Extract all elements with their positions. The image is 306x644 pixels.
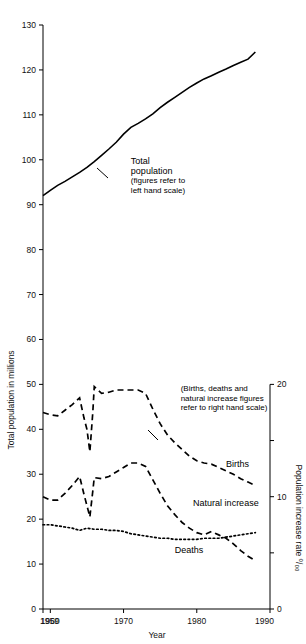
x-axis-title: Year <box>148 630 165 640</box>
x-tick-label: 1960 <box>41 616 60 626</box>
total-population-note-line: population <box>131 166 173 176</box>
y-tick-label-left: 90 <box>27 200 37 210</box>
axes-group: 0102030405060708090100110120130010201959… <box>22 20 287 626</box>
births-label: Births <box>226 459 250 469</box>
y-tick-label-left: 40 <box>27 424 37 434</box>
y-tick-label-left: 30 <box>27 469 37 479</box>
y-tick-label-left: 120 <box>22 65 36 75</box>
total-population-note-line: (figures refer to <box>131 176 186 185</box>
series-deaths <box>43 525 255 540</box>
x-tick-label: 1980 <box>187 616 206 626</box>
y-tick-label-right: 0 <box>277 604 282 614</box>
right-scale-note-line: (Births, deaths and <box>181 384 248 393</box>
y-tick-label-left: 70 <box>27 290 37 300</box>
y-axis-title-left: Total population in millions <box>6 350 16 449</box>
x-tick-label: 1970 <box>114 616 133 626</box>
y-tick-label-left: 50 <box>27 379 37 389</box>
total-population-note-line: left hand scale) <box>131 186 186 195</box>
y-tick-label-right: 10 <box>277 492 287 502</box>
right-scale-note-line: refer to right hand scale) <box>181 403 268 412</box>
y-tick-label-left: 0 <box>31 604 36 614</box>
y-axis-title-right: Population increase rate ⁰/₀₀ <box>294 465 304 572</box>
y-tick-label-right: 20 <box>277 379 287 389</box>
labels-group: BirthsNatural increaseDeathsTotalpopulat… <box>97 156 268 555</box>
right-scale-note-line: natural increase figures <box>181 394 264 403</box>
x-tick-label: 1990 <box>255 616 274 626</box>
y-tick-label-left: 130 <box>22 20 36 30</box>
y-tick-label-left: 20 <box>27 514 37 524</box>
right-scale-note: (Births, deaths andnatural increase figu… <box>181 384 268 412</box>
right-scale-leader <box>148 430 158 440</box>
y-tick-label-left: 110 <box>22 110 36 120</box>
y-tick-label-left: 80 <box>27 245 37 255</box>
y-tick-label-left: 60 <box>27 334 37 344</box>
natural-increase-label: Natural increase <box>193 498 259 508</box>
population-chart: 0102030405060708090100110120130010201959… <box>0 0 306 644</box>
curves-group <box>43 52 255 561</box>
y-tick-label-left: 100 <box>22 155 36 165</box>
deaths-label: Deaths <box>175 545 204 555</box>
axis-frame <box>43 25 270 609</box>
total-population-note: Totalpopulation(figures refer toleft han… <box>131 156 186 195</box>
y-tick-label-left: 10 <box>27 559 37 569</box>
chart-canvas: 0102030405060708090100110120130010201959… <box>0 0 306 644</box>
series-natural-increase <box>43 463 255 561</box>
total-population-note-line: Total <box>131 156 150 166</box>
total-population-leader <box>97 168 108 178</box>
